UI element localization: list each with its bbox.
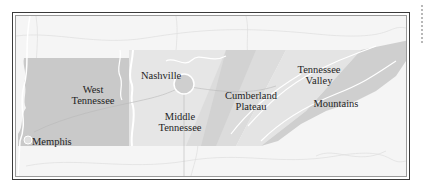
label-line: Mountains [306, 98, 366, 109]
city-name: Memphis [32, 136, 72, 147]
label-memphis: Memphis [32, 136, 72, 147]
city-name: Nashville [141, 70, 181, 81]
label-line: West [63, 84, 123, 95]
label-line: Middle [150, 111, 210, 122]
label-line: Cumberland [219, 90, 283, 101]
label-line: Tennessee [150, 122, 210, 133]
label-middle-tennessee: Middle Tennessee [150, 111, 210, 133]
label-mountains: Mountains [306, 98, 366, 109]
label-line: Tennessee [63, 95, 123, 106]
memphis-marker [24, 136, 32, 144]
label-tennessee-valley: Tennessee Valley [292, 64, 346, 86]
label-cumberland-plateau: Cumberland Plateau [219, 90, 283, 112]
page-margin-marks [421, 5, 424, 55]
label-line: Plateau [219, 101, 283, 112]
label-west-tennessee: West Tennessee [63, 84, 123, 106]
label-line: Valley [292, 75, 346, 86]
label-line: Tennessee [292, 64, 346, 75]
label-nashville: Nashville [141, 70, 181, 81]
